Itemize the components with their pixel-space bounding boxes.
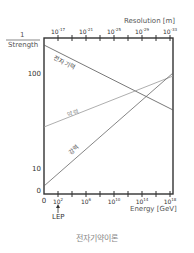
series-weak <box>44 76 173 127</box>
y-title-numerator: 1 <box>20 31 24 39</box>
x-tick-label: 1014 <box>136 197 149 205</box>
series-strong <box>44 73 173 186</box>
lep-annotation: LEP <box>52 213 65 221</box>
x-tick-label: 1010 <box>108 197 121 205</box>
x2-tick-label: 10-33 <box>163 27 177 35</box>
y-tick-label-10: 10 <box>11 165 41 173</box>
x2-tick-label: 10-25 <box>107 27 121 35</box>
y-tick-label-0: 0 <box>11 187 41 195</box>
series-electromagnetic <box>44 45 173 110</box>
x2-tick-label: 10-21 <box>79 27 93 35</box>
x2-tick-label: 10-29 <box>135 27 149 35</box>
x-tick-label: 106 <box>81 197 91 205</box>
x-tick-label: 0 <box>42 197 46 205</box>
figure-caption: 전자기약이론 <box>0 232 194 243</box>
x2-axis-title: Resolution [m] <box>124 17 175 25</box>
chart-plot <box>0 0 194 253</box>
x-axis-title: Energy [GeV] <box>130 205 177 213</box>
x2-tick-label: 10-17 <box>51 27 65 35</box>
x-tick-label: 102 <box>53 197 63 205</box>
y-tick-label-100: 100 <box>11 70 41 78</box>
y-title-denominator: Strength <box>8 41 38 49</box>
x-tick-label: 1018 <box>164 197 177 205</box>
